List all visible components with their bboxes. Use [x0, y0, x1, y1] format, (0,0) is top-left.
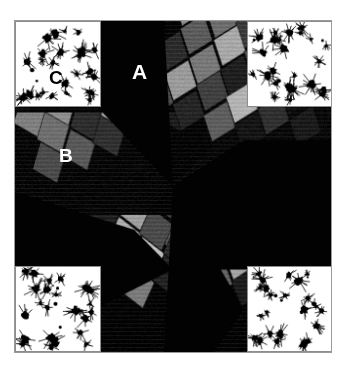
label-b: B — [59, 146, 73, 165]
label-a: A — [132, 61, 147, 82]
inset-bottom-right-image — [248, 267, 332, 351]
figure-root: A B C — [0, 0, 344, 374]
inset-top-right — [247, 21, 332, 107]
inset-bottom-right — [247, 266, 332, 352]
micrograph-panel: A B C — [14, 20, 332, 353]
inset-top-right-image — [248, 22, 332, 106]
label-c: C — [49, 68, 63, 87]
inset-bottom-left-image — [16, 267, 100, 351]
inset-top-left-image — [16, 22, 100, 106]
inset-top-left — [15, 21, 101, 107]
inset-bottom-left — [15, 266, 101, 352]
